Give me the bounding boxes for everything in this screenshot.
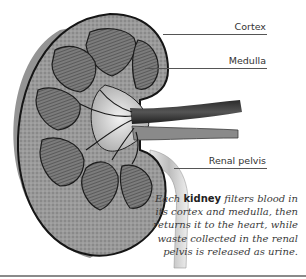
label-medulla: Medulla: [229, 55, 266, 66]
renal-pelvis-leader-line: [174, 168, 267, 169]
caption-keyword: kidney: [183, 193, 221, 204]
figure-caption: Each kidney filters blood in its cortex …: [148, 192, 298, 258]
label-renal-pelvis: Renal pelvis: [209, 155, 266, 166]
bottom-divider: [0, 275, 306, 277]
cortex-leader-line: [163, 34, 267, 35]
medulla-leader-line: [145, 68, 267, 69]
caption-prefix: Each: [155, 193, 183, 204]
kidney-diagram: Cortex Medulla Renal pelvis Each kidney …: [0, 0, 306, 279]
label-cortex: Cortex: [235, 21, 266, 32]
